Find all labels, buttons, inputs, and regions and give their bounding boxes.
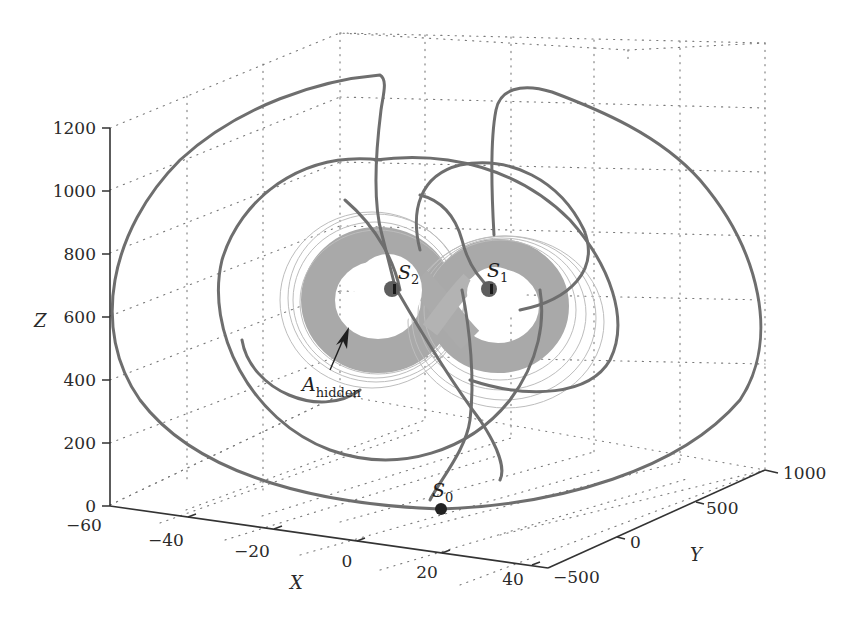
hidden-attractor [280,212,604,408]
svg-text:0: 0 [342,551,353,571]
svg-text:20: 20 [416,562,438,582]
svg-text:−60: −60 [66,515,102,535]
point-s2 [384,281,400,297]
y-axis-label: Y [690,544,704,565]
svg-text:1000: 1000 [53,181,96,201]
svg-text:0: 0 [85,496,96,516]
svg-text:1200: 1200 [53,118,96,138]
svg-text:0: 0 [630,532,641,552]
x-axis-label: X [288,572,304,593]
label-s0: S0 [432,479,453,505]
svg-text:800: 800 [64,244,96,264]
label-a-hidden: Ahidden [300,373,362,400]
point-s1 [481,281,497,297]
svg-text:1000: 1000 [783,463,826,483]
svg-text:−40: −40 [148,530,184,550]
z-tick-labels: 1200 1000 800 600 400 200 0 [53,118,96,516]
y-tick-labels: −500 0 500 1000 [553,463,826,587]
svg-text:−500: −500 [553,567,600,587]
svg-text:200: 200 [64,433,96,453]
svg-text:600: 600 [64,307,96,327]
svg-text:400: 400 [64,370,96,390]
svg-text:40: 40 [502,569,524,589]
svg-text:500: 500 [706,498,738,518]
svg-text:−20: −20 [234,541,270,561]
z-axis-label: Z [33,310,47,331]
phase-portrait-3d: 1200 1000 800 600 400 200 0 −60 −40 −20 … [0,0,850,625]
